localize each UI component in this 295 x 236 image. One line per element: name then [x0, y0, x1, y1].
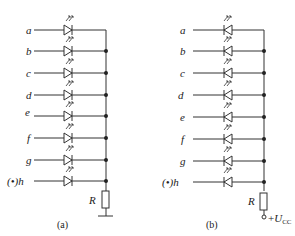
svg-text:(•)h: (•)h: [7, 175, 24, 188]
svg-text:R: R: [247, 195, 255, 207]
svg-text:R: R: [88, 194, 96, 206]
led-diode-icon: [224, 46, 232, 56]
row-a-g: [34, 146, 108, 165]
led-diode-icon: [64, 133, 72, 143]
led-diode-icon: [64, 176, 72, 186]
svg-text:(•)h: (•)h: [162, 176, 179, 189]
row-a-f: [34, 124, 108, 143]
led-diode-icon: [64, 46, 72, 56]
row-a-h: [34, 167, 108, 186]
resistor-icon: [102, 191, 109, 208]
led-diode-icon: [224, 156, 232, 166]
circuit-diagram: a b c d e f g (•)h R (a): [0, 0, 295, 236]
row-a-a: [34, 16, 106, 35]
led-diode-icon: [224, 112, 232, 122]
resistor-icon: [260, 193, 267, 210]
svg-text:d: d: [178, 89, 184, 101]
led-diode-icon: [64, 155, 72, 165]
row-a-d: [34, 81, 108, 100]
row-a-b: [34, 37, 108, 56]
panel-b: a b c d e f g (•)h R +UCC (b): [162, 16, 292, 231]
svg-text:b: b: [26, 45, 32, 57]
led-diode-icon: [64, 90, 72, 100]
svg-text:b: b: [180, 45, 186, 57]
svg-text:f: f: [27, 132, 32, 144]
led-diode-icon: [224, 25, 232, 35]
svg-text:a: a: [26, 24, 32, 36]
led-diode-icon: [224, 177, 232, 187]
terminal-icon: [262, 215, 266, 219]
svg-text:g: g: [180, 155, 186, 167]
svg-text:(a): (a): [57, 219, 68, 231]
led-diode-icon: [224, 90, 232, 100]
svg-text:a: a: [180, 24, 186, 36]
led-diode-icon: [224, 68, 232, 78]
row-a-c: [34, 59, 108, 78]
svg-text:f: f: [181, 133, 186, 145]
svg-text:+UCC: +UCC: [268, 212, 292, 226]
svg-text:(b): (b): [206, 219, 218, 231]
svg-text:d: d: [26, 89, 32, 101]
svg-text:e: e: [180, 111, 185, 123]
led-diode-icon: [64, 68, 72, 78]
svg-text:g: g: [26, 154, 32, 166]
svg-text:e: e: [25, 106, 30, 118]
svg-text:c: c: [26, 67, 31, 79]
led-diode-icon: [224, 134, 232, 144]
led-diode-icon: [64, 25, 72, 35]
led-diode-icon: [64, 111, 72, 121]
svg-text:c: c: [180, 67, 185, 79]
panel-a: a b c d e f g (•)h R (a): [7, 16, 113, 231]
row-a-e: [34, 102, 108, 121]
